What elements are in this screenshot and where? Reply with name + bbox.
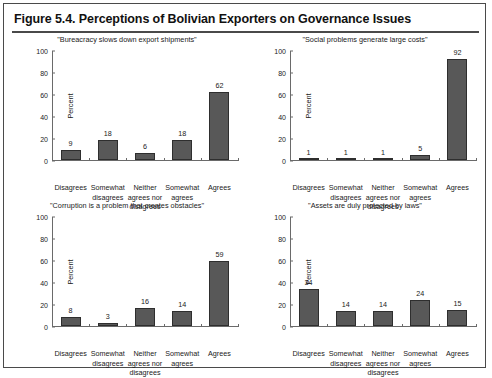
- y-axis-tick-mark: [290, 305, 293, 306]
- y-axis-tick-mark: [52, 239, 55, 240]
- bar-value-label: 1: [307, 148, 311, 157]
- bar: [209, 261, 229, 326]
- y-axis-tick-label: 100: [22, 214, 52, 221]
- chart-title: "Bureacracy slows down export shipments": [8, 35, 246, 44]
- x-axis-tick-mark: [327, 158, 328, 161]
- y-axis-tick-mark: [290, 161, 293, 162]
- bar-value-label: 62: [215, 81, 223, 90]
- bar-value-label: 16: [141, 297, 149, 306]
- x-axis-tick-mark: [238, 158, 239, 161]
- y-axis-tick-label: 40: [260, 114, 290, 121]
- bar-value-label: 8: [69, 306, 73, 315]
- y-axis-tick-label: 20: [260, 136, 290, 143]
- plot-area: Percent 0204060801001Disagrees1Somewhat …: [290, 51, 476, 161]
- bar-value-label: 3: [106, 312, 110, 321]
- y-axis-label: Percent: [66, 93, 75, 118]
- plot-area: Percent 0204060801009Disagrees18Somewhat…: [52, 51, 238, 161]
- x-axis-category-label: Agrees: [196, 349, 242, 359]
- x-axis-tick-mark: [402, 324, 403, 327]
- x-axis-tick-mark: [164, 158, 165, 161]
- bar-value-label: 59: [215, 250, 223, 259]
- y-axis-tick-mark: [290, 95, 293, 96]
- y-axis-tick-mark: [52, 117, 55, 118]
- bar: [373, 158, 393, 160]
- figure-container: Figure 5.4. Perceptions of Bolivian Expo…: [3, 3, 486, 368]
- y-axis-tick-mark: [52, 283, 55, 284]
- bar-value-label: 18: [104, 129, 112, 138]
- y-axis-tick-mark: [52, 305, 55, 306]
- y-axis-tick-mark: [52, 217, 55, 218]
- x-axis-tick-mark: [439, 158, 440, 161]
- bar: [447, 59, 467, 160]
- bar: [373, 311, 393, 326]
- y-axis-tick-label: 80: [260, 70, 290, 77]
- bar-value-label: 9: [69, 139, 73, 148]
- y-axis-tick-mark: [290, 117, 293, 118]
- y-axis-tick-label: 0: [22, 324, 52, 331]
- x-axis-tick-mark: [364, 324, 365, 327]
- y-axis: [52, 51, 53, 161]
- x-axis-category-label: Agrees: [434, 349, 480, 359]
- x-axis-tick-mark: [126, 158, 127, 161]
- x-axis: [52, 160, 238, 161]
- y-axis-tick-label: 20: [22, 302, 52, 309]
- x-axis-tick-mark: [364, 158, 365, 161]
- plot-area: Percent 0204060801008Disagrees3Somewhat …: [52, 217, 238, 327]
- y-axis-tick-mark: [52, 73, 55, 74]
- y-axis-tick-label: 0: [22, 158, 52, 165]
- y-axis-tick-label: 20: [22, 136, 52, 143]
- bar-value-label: 14: [178, 300, 186, 309]
- bar: [98, 323, 118, 326]
- y-axis-tick-mark: [290, 217, 293, 218]
- bar: [209, 92, 229, 160]
- y-axis-label: Percent: [66, 259, 75, 284]
- y-axis: [290, 217, 291, 327]
- y-axis-tick-label: 60: [260, 92, 290, 99]
- y-axis-tick-label: 20: [260, 302, 290, 309]
- x-axis-tick-mark: [164, 324, 165, 327]
- x-axis-tick-mark: [476, 158, 477, 161]
- chart-panel-bottom-right: "Assets are duly protected by laws" Perc…: [246, 199, 484, 362]
- y-axis-tick-label: 100: [260, 48, 290, 55]
- y-axis-tick-mark: [52, 139, 55, 140]
- y-axis-tick-mark: [52, 327, 55, 328]
- y-axis-tick-label: 40: [260, 280, 290, 287]
- bar-value-label: 15: [453, 299, 461, 308]
- y-axis-tick-mark: [52, 261, 55, 262]
- y-axis-tick-label: 60: [22, 92, 52, 99]
- y-axis-tick-mark: [52, 51, 55, 52]
- bar: [172, 140, 192, 160]
- y-axis-tick-mark: [290, 261, 293, 262]
- bar: [410, 155, 430, 161]
- bar: [299, 158, 319, 160]
- y-axis-tick-mark: [290, 327, 293, 328]
- x-axis-category-label: Agrees: [196, 183, 242, 193]
- y-axis-tick-label: 40: [22, 280, 52, 287]
- bar: [336, 311, 356, 326]
- x-axis: [290, 160, 476, 161]
- chart-panel-top-left: "Bureacracy slows down export shipments"…: [8, 33, 246, 196]
- bar-value-label: 34: [305, 278, 313, 287]
- bar: [410, 300, 430, 326]
- chart-title: "Social problems generate large costs": [246, 35, 484, 44]
- x-axis-tick-mark: [89, 158, 90, 161]
- y-axis-tick-mark: [290, 283, 293, 284]
- bar: [98, 140, 118, 160]
- y-axis: [52, 217, 53, 327]
- x-axis-tick-mark: [201, 158, 202, 161]
- y-axis-tick-mark: [52, 95, 55, 96]
- bar-value-label: 18: [178, 129, 186, 138]
- bar: [135, 153, 155, 160]
- x-axis-tick-mark: [476, 324, 477, 327]
- x-axis-tick-mark: [439, 324, 440, 327]
- bar: [447, 310, 467, 327]
- y-axis-tick-label: 80: [260, 236, 290, 243]
- x-axis-tick-mark: [89, 324, 90, 327]
- bar-value-label: 92: [453, 48, 461, 57]
- y-axis-tick-label: 60: [22, 258, 52, 265]
- y-axis-tick-label: 60: [260, 258, 290, 265]
- y-axis-tick-mark: [290, 139, 293, 140]
- bar: [135, 308, 155, 326]
- x-axis: [52, 326, 238, 327]
- x-axis: [290, 326, 476, 327]
